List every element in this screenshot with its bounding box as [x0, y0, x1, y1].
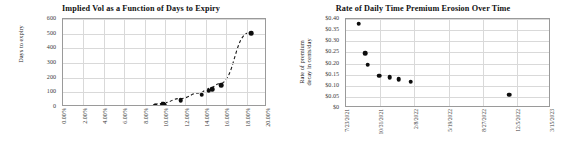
data-point: [153, 104, 158, 106]
data-point: [363, 51, 368, 56]
y-tick-label: 600: [47, 15, 56, 21]
gridline-vertical: [414, 19, 415, 106]
y-tick-label: $0.40: [325, 15, 339, 21]
gridline-vertical: [124, 19, 125, 105]
gridline-horizontal: [63, 19, 265, 20]
gridline-horizontal: [63, 48, 265, 49]
gridline-vertical: [145, 19, 146, 105]
y-tick-label: 300: [47, 59, 56, 65]
data-point: [356, 22, 361, 27]
y-axis-tick-labels-left: 0100200300400500600: [20, 18, 59, 106]
y-tick-label: $0.25: [325, 48, 339, 54]
data-point: [249, 31, 254, 36]
data-point: [397, 77, 402, 82]
x-tick-label: 3/15/2023: [549, 109, 555, 132]
gridline-horizontal: [346, 64, 549, 65]
plot-area-time-decay: [345, 18, 550, 107]
gridline-horizontal: [346, 19, 549, 20]
data-point: [408, 79, 413, 84]
y-tick-label: $0.35: [325, 26, 339, 32]
y-tick-label: $0.20: [325, 59, 339, 65]
chart-title-implied-vol: Implied Vol as a Function of Days to Exp…: [0, 4, 282, 13]
y-tick-label: $0.05: [325, 93, 339, 99]
gridline-vertical: [380, 19, 381, 106]
x-tick-label: 0.00%: [61, 108, 67, 124]
x-tick-label: 5/19/2022: [447, 109, 453, 132]
chart-title-time-decay: Rate of Daily Time Premium Erosion Over …: [282, 4, 564, 13]
gridline-vertical: [185, 19, 186, 105]
x-tick-label: 12.00%: [184, 108, 190, 127]
data-point: [199, 92, 204, 97]
gridline-horizontal: [346, 41, 549, 42]
gridline-horizontal: [346, 30, 549, 31]
x-tick-label: 2.00%: [82, 108, 88, 124]
x-tick-label: 8.00%: [143, 108, 149, 124]
gridline-vertical: [226, 19, 227, 105]
x-axis-tick-labels-right: 7/23/202110/31/20212/8/20225/19/20228/27…: [345, 109, 550, 150]
gridline-vertical: [449, 19, 450, 106]
data-point: [365, 62, 370, 67]
data-point: [377, 73, 382, 78]
y-tick-label: $0: [333, 104, 339, 110]
chart-panel-implied-vol: Implied Vol as a Function of Days to Exp…: [0, 0, 282, 151]
x-axis-tick-labels-left: 0.00%2.00%4.00%6.00%8.00%10.00%12.00%14.…: [62, 108, 266, 150]
gridline-horizontal: [346, 86, 549, 87]
chart-panel-time-decay: Rate of Daily Time Premium Erosion Over …: [282, 0, 564, 151]
gridline-horizontal: [63, 78, 265, 79]
data-point: [507, 92, 512, 97]
x-tick-label: 10/31/2021: [378, 109, 384, 134]
data-point: [162, 102, 167, 106]
x-tick-label: 18.00%: [245, 108, 251, 127]
x-tick-label: 20.00%: [265, 108, 271, 127]
gridline-vertical: [165, 19, 166, 105]
y-axis-tick-labels-right: $0$0.05$0.10$0.15$0.20$0.25$0.30$0.35$0.…: [302, 18, 342, 107]
gridline-vertical: [83, 19, 84, 105]
y-tick-label: $0.15: [325, 71, 339, 77]
y-tick-label: 200: [47, 74, 56, 80]
gridline-vertical: [104, 19, 105, 105]
x-tick-label: 14.00%: [204, 108, 210, 127]
gridline-horizontal: [63, 34, 265, 35]
x-tick-label: 12/5/2022: [515, 109, 521, 132]
data-point: [210, 87, 215, 92]
gridline-horizontal: [63, 63, 265, 64]
x-tick-label: 8/27/2022: [481, 109, 487, 132]
y-tick-label: 0: [53, 103, 56, 109]
plot-area-implied-vol: [62, 18, 266, 106]
gridline-vertical: [247, 19, 248, 105]
y-tick-label: $0.10: [325, 82, 339, 88]
y-tick-label: $0.30: [325, 37, 339, 43]
gridline-vertical: [483, 19, 484, 106]
data-point: [387, 75, 392, 80]
x-tick-label: 10.00%: [163, 108, 169, 127]
y-tick-label: 100: [47, 88, 56, 94]
two-chart-figure: Implied Vol as a Function of Days to Exp…: [0, 0, 564, 151]
gridline-horizontal: [346, 97, 549, 98]
x-tick-label: 2/8/2022: [412, 109, 418, 129]
x-tick-label: 16.00%: [224, 108, 230, 127]
gridline-horizontal: [346, 52, 549, 53]
gridline-horizontal: [63, 92, 265, 93]
data-point: [179, 98, 184, 103]
x-tick-label: 6.00%: [122, 108, 128, 124]
x-tick-label: 4.00%: [102, 108, 108, 124]
y-tick-label: 500: [47, 30, 56, 36]
data-point: [219, 83, 224, 88]
y-tick-label: 400: [47, 44, 56, 50]
x-tick-label: 7/23/2021: [344, 109, 350, 132]
gridline-vertical: [517, 19, 518, 106]
